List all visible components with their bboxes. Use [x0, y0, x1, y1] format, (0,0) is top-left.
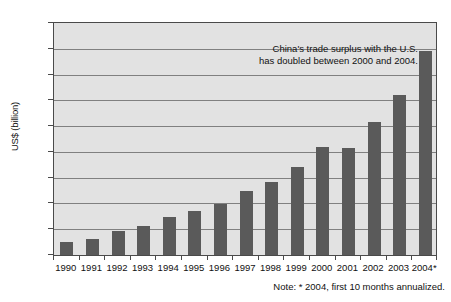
x-tick-mark: [104, 256, 105, 260]
bar: [342, 148, 355, 255]
bar: [86, 239, 99, 255]
bar: [163, 217, 176, 255]
bar: [188, 211, 201, 255]
x-tick-mark: [283, 256, 284, 260]
gridline: [54, 100, 436, 101]
x-tick-mark: [207, 256, 208, 260]
bar: [368, 122, 381, 255]
x-tick-mark: [411, 256, 412, 260]
x-tick-mark: [232, 256, 233, 260]
chart-footnote: Note: * 2004, first 10 months annualized…: [180, 281, 445, 292]
x-tick-mark: [130, 256, 131, 260]
bar: [60, 242, 73, 255]
x-tick-label: 2004*: [408, 262, 440, 273]
bar: [393, 95, 406, 255]
bar: [316, 147, 329, 255]
x-tick-mark: [53, 256, 54, 260]
x-tick-mark: [79, 256, 80, 260]
x-tick-mark: [335, 256, 336, 260]
bar: [112, 231, 125, 255]
x-tick-mark: [155, 256, 156, 260]
y-axis-title: US$ (billion): [9, 77, 20, 177]
annotation-line: China's trade surplus with the U.S.: [200, 43, 418, 55]
trade-surplus-bar-chart: US$ (billion) 180160140120100806040200 1…: [0, 0, 451, 302]
x-tick-mark: [360, 256, 361, 260]
annotation-line: has doubled between 2000 and 2004.: [200, 55, 418, 67]
bar: [265, 182, 278, 255]
bar: [240, 191, 253, 255]
chart-annotation: China's trade surplus with the U.S.has d…: [200, 43, 418, 66]
x-tick-mark: [436, 256, 437, 260]
x-tick-mark: [309, 256, 310, 260]
x-tick-mark: [386, 256, 387, 260]
gridline: [54, 75, 436, 76]
bar: [419, 51, 432, 255]
bar: [137, 226, 150, 255]
bar: [214, 204, 227, 255]
x-tick-mark: [258, 256, 259, 260]
x-tick-mark: [181, 256, 182, 260]
bar: [291, 167, 304, 256]
